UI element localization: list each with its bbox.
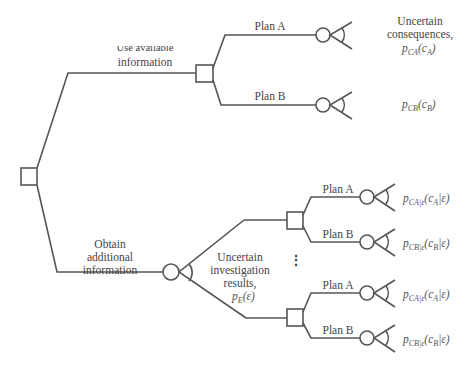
- prob-lower-cb: pCB|ε(cB|ε): [403, 332, 450, 351]
- label-results: results,: [200, 276, 280, 290]
- prob-ca-top: pCA(cA): [402, 41, 436, 60]
- edge-use-available: [37, 73, 196, 168]
- label-upper-plan-a: Plan A: [316, 182, 360, 196]
- label-upper-plan-b: Plan B: [316, 227, 360, 241]
- label-obtain: Obtain: [80, 237, 140, 251]
- prob-upper-ca: pCA|ε(cA|ε): [403, 191, 450, 210]
- prob-e: pE(ε): [232, 289, 255, 308]
- label-lower-plan-a: Plan A: [316, 278, 360, 292]
- label-consequences: consequences,: [370, 27, 470, 41]
- chance-node-plan-b-top: [316, 92, 352, 119]
- chance-node-lower-plan-b: [360, 325, 395, 352]
- decision-node-upper-sub: [287, 212, 303, 229]
- label-additional: additional: [80, 250, 140, 264]
- label-plan-a-top: Plan A: [245, 19, 295, 33]
- chance-node-lower-plan-a: [360, 280, 395, 307]
- decision-node-use-available: [196, 65, 213, 82]
- label-uncertain: Uncertain: [370, 14, 470, 28]
- label-uncertain-investigation: Uncertain: [200, 250, 280, 264]
- chance-node-plan-a-top: [316, 22, 352, 49]
- decision-tree-diagram: [0, 0, 471, 370]
- edge-plan-a-top: [213, 35, 316, 68]
- prob-cb-top: pCB(cB): [402, 97, 436, 116]
- chance-node-upper-plan-b: [360, 229, 395, 256]
- root-decision-node: [21, 168, 37, 185]
- decision-node-lower-sub: [287, 309, 303, 326]
- prob-upper-cb: pCB|ε(cB|ε): [403, 236, 450, 255]
- label-lower-plan-b: Plan B: [316, 323, 360, 337]
- edge-upper-plan-a: [303, 197, 360, 215]
- chance-node-upper-plan-a: [360, 184, 395, 211]
- edge-lower-plan-a: [303, 293, 360, 312]
- vertical-ellipsis: ⋮: [288, 254, 304, 268]
- label-investigation: investigation: [200, 263, 280, 277]
- label-information: information: [80, 263, 140, 277]
- label-use-available-line2: information: [100, 55, 190, 69]
- prob-lower-ca: pCA|ε(cA|ε): [403, 287, 450, 306]
- label-plan-b-top: Plan B: [245, 89, 295, 103]
